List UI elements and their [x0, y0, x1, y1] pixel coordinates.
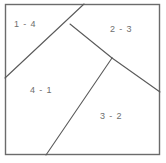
- region-label-top-right: 2 - 3: [110, 25, 133, 34]
- region-label-top-left: 1 - 4: [14, 20, 37, 29]
- region-label-bottom-left: 4 - 1: [30, 86, 53, 95]
- partition-figure: 1 - 4 2 - 3 4 - 1 3 - 2: [0, 0, 166, 163]
- region-label-bottom-right: 3 - 2: [100, 112, 123, 121]
